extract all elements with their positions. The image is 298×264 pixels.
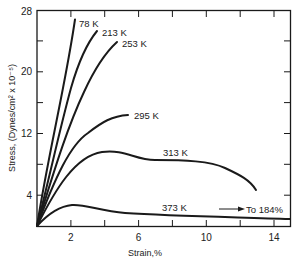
y-tick-label-4: 4 xyxy=(26,190,32,201)
y-ticks-right xyxy=(284,41,290,195)
y-tick-label-28: 28 xyxy=(21,6,33,17)
curves xyxy=(37,20,290,227)
x-axis-title: Strain,% xyxy=(128,248,162,258)
x-tick-label-10: 10 xyxy=(201,232,213,243)
x-tick-label-6: 6 xyxy=(136,232,142,243)
label-to-184: To 184% xyxy=(246,204,284,215)
x-tick-label-14: 14 xyxy=(268,232,280,243)
y-ticks-left xyxy=(37,41,43,195)
to-184-arrow xyxy=(219,207,245,212)
label-373k: 373 K xyxy=(162,202,187,213)
x-tick-label-2: 2 xyxy=(68,232,74,243)
label-295k: 295 K xyxy=(134,110,159,121)
y-axis-title: Stress, (Dynes/cm² x 10⁻⁵) xyxy=(7,64,17,172)
stress-strain-chart: 2 6 10 14 4 12 20 28 Strain,% Stress, (D… xyxy=(0,0,298,264)
y-tick-label-12: 12 xyxy=(21,128,33,139)
label-253k: 253 K xyxy=(122,38,147,49)
y-tick-label-20: 20 xyxy=(21,66,33,77)
label-313k: 313 K xyxy=(163,147,188,158)
plot-frame xyxy=(37,11,291,227)
x-ticks-top xyxy=(71,11,274,17)
label-78k: 78 K xyxy=(79,18,99,29)
x-ticks-bottom xyxy=(71,220,274,226)
label-213k: 213 K xyxy=(102,27,127,38)
curve-78k xyxy=(37,20,75,227)
